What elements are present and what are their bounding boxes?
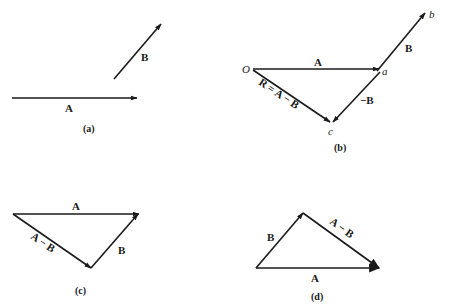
label-c-B: B bbox=[118, 244, 126, 256]
point-b: b bbox=[429, 8, 435, 20]
vector-c-B bbox=[91, 214, 138, 268]
panel-b: O A a b B −B R = A − B c (b) bbox=[242, 8, 435, 154]
label-d-AmB: A − B bbox=[328, 215, 357, 241]
label-b-B: B bbox=[405, 42, 413, 54]
point-c: c bbox=[328, 125, 333, 137]
label-b-R: R = A − B bbox=[257, 76, 302, 112]
caption-a: (a) bbox=[83, 123, 95, 135]
label-d-B: B bbox=[267, 231, 275, 243]
vector-a-B bbox=[114, 24, 161, 79]
vector-subtraction-figure: B A (a) O A a b B −B R = A − B c (b) A A… bbox=[0, 0, 449, 307]
label-b-A: A bbox=[314, 56, 322, 68]
label-c-AmB: A − B bbox=[29, 230, 58, 255]
panel-a: B A (a) bbox=[12, 24, 161, 135]
label-a-A: A bbox=[65, 102, 73, 114]
label-a-B: B bbox=[141, 51, 149, 63]
caption-d: (d) bbox=[311, 291, 323, 303]
caption-c: (c) bbox=[75, 285, 86, 297]
panel-c: A A − B B (c) bbox=[13, 200, 139, 297]
panel-d: B A − B A (d) bbox=[256, 213, 379, 303]
vector-d-B bbox=[256, 213, 303, 268]
label-c-A: A bbox=[72, 200, 80, 212]
point-a: a bbox=[382, 65, 388, 77]
label-d-A: A bbox=[311, 272, 319, 284]
caption-b: (b) bbox=[334, 142, 346, 154]
label-b-negB: −B bbox=[360, 94, 374, 106]
point-O: O bbox=[242, 63, 250, 75]
vector-b-B bbox=[377, 13, 425, 71]
